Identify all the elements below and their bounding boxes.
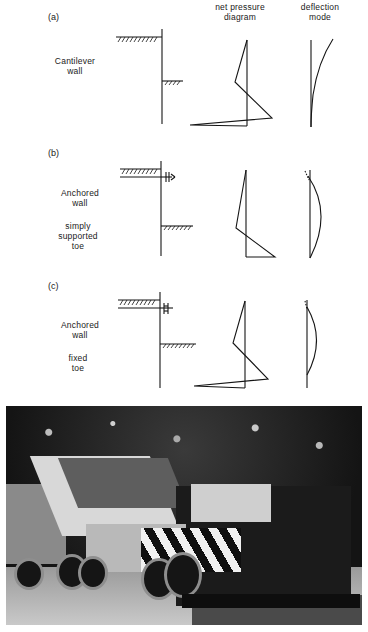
- photo-paver-screed: [182, 594, 360, 608]
- photo-asphalt-load: [58, 458, 188, 508]
- panel-a-wall-section: [116, 29, 183, 124]
- panel-b-deflection: [305, 170, 321, 258]
- panel-a-net-pressure: [190, 40, 272, 126]
- panel-a-deflection: [311, 39, 333, 127]
- photo-truck-front-wheel: [14, 558, 44, 590]
- panel-b-wall-section: [120, 161, 193, 256]
- photo-paver-cab: [191, 484, 271, 522]
- panel-c-deflection: [305, 300, 317, 388]
- panel-c-wall-section: [118, 292, 196, 388]
- paver-photo: [6, 406, 362, 625]
- photo-truck-rear-wheel-2: [78, 556, 108, 590]
- photo-paver-wheel-2: [164, 552, 202, 598]
- panel-b-net-pressure: [236, 170, 275, 257]
- panel-c-net-pressure: [194, 301, 268, 388]
- retaining-wall-diagrams: [0, 0, 368, 400]
